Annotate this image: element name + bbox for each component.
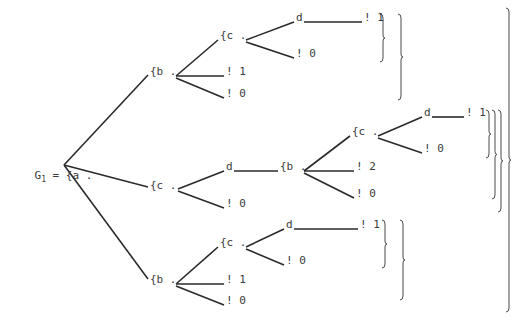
tree-edge [176, 286, 224, 305]
tree-diagram: G1 = {a . {b .{c .d! 1! 0! 1! 0{c .d! 0{… [0, 0, 522, 320]
tree-edge [246, 42, 294, 58]
tree-edge [176, 40, 218, 76]
tree-node-d-bot: d [286, 219, 293, 231]
tree-node-leaf-top-c0: ! 0 [296, 48, 316, 60]
tree-edge [178, 191, 224, 208]
closing-brace [506, 8, 511, 312]
tree-edge [246, 22, 294, 40]
tree-edge [378, 117, 422, 136]
closing-brace [486, 110, 491, 158]
tree-node-leaf-top-b0: ! 0 [226, 88, 246, 100]
closing-brace [398, 14, 403, 100]
tree-node-leaf-mid-d1: ! 1 [466, 107, 486, 119]
tree-node-leaf-mid-b2: ! 2 [356, 161, 376, 173]
closing-brace [492, 110, 497, 199]
tree-edge [64, 75, 148, 165]
tree-node-d-top: d [296, 12, 303, 24]
tree-node-leaf-top-d1: ! 1 [364, 12, 384, 24]
tree-node-leaf-bot-b0: ! 0 [226, 295, 246, 307]
tree-node-b-top: {b . [150, 66, 177, 78]
tree-node-c-mid: {c . [150, 180, 177, 192]
closing-brace [382, 220, 387, 268]
tree-edge [176, 78, 224, 98]
tree-node-b-bot: {b . [150, 274, 177, 286]
closing-brace [498, 110, 503, 212]
root-subscript: 1 [41, 175, 46, 184]
tree-edge [378, 138, 422, 153]
tree-node-b-mid: {b . [280, 161, 307, 173]
tree-node-leaf-mid-c0: ! 0 [226, 198, 246, 210]
tree-edge [176, 247, 218, 284]
tree-node-c-top: {c . [220, 30, 247, 42]
tree-node-leaf-mid-b0: ! 0 [356, 188, 376, 200]
closing-brace [400, 220, 405, 300]
tree-node-c-mid2: {c . [352, 126, 379, 138]
tree-node-leaf-top-b1: ! 1 [226, 66, 246, 78]
tree-node-leaf-bot-d1: ! 1 [360, 219, 380, 231]
tree-node-d-mid2: d [424, 107, 431, 119]
tree-node-leaf-mid-c2-0: ! 0 [424, 143, 444, 155]
tree-node-leaf-bot-b1: ! 1 [226, 274, 246, 286]
tree-node-c-bot: {c . [220, 237, 247, 249]
tree-node-d-mid: d [226, 161, 233, 173]
tree-edge [178, 171, 224, 189]
tree-node-leaf-bot-c0: ! 0 [286, 255, 306, 267]
tree-edge [246, 249, 284, 265]
root-suffix: = {a . [46, 169, 92, 182]
tree-edge [304, 173, 354, 198]
root-label: G1 = {a . [8, 158, 92, 195]
tree-edge [304, 136, 350, 171]
tree-edge [246, 229, 284, 247]
